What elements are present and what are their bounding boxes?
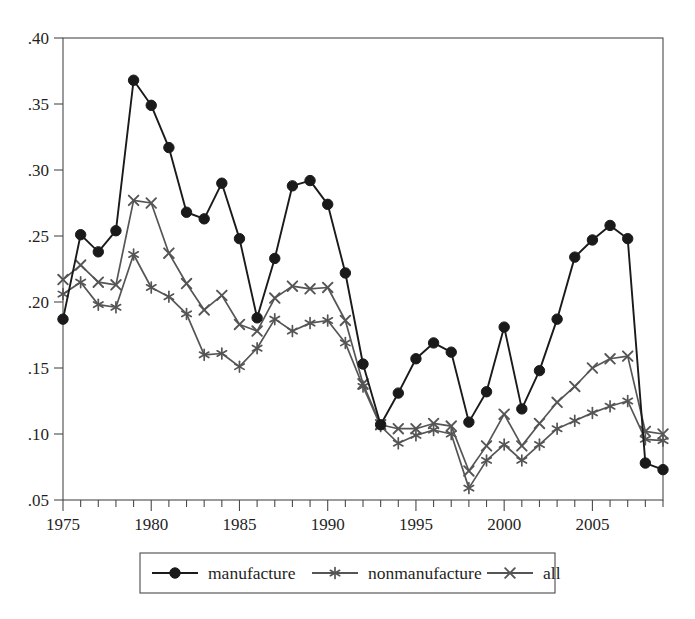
marker-circle bbox=[128, 75, 138, 85]
marker-circle bbox=[375, 420, 385, 430]
series-line bbox=[63, 254, 663, 488]
x-tick-label: 1980 bbox=[134, 515, 168, 534]
marker-circle bbox=[393, 388, 403, 398]
y-tick-label: .40 bbox=[28, 29, 49, 48]
marker-circle bbox=[93, 247, 103, 257]
x-tick-label: 2000 bbox=[487, 515, 521, 534]
marker-circle bbox=[517, 404, 527, 414]
marker-circle bbox=[464, 417, 474, 427]
series-nonmanufacture bbox=[58, 249, 667, 493]
marker-circle bbox=[587, 235, 597, 245]
marker-circle bbox=[58, 314, 68, 324]
marker-circle bbox=[481, 387, 491, 397]
marker-circle bbox=[217, 178, 227, 188]
y-tick-label: .20 bbox=[28, 293, 49, 312]
y-tick-label: .15 bbox=[28, 359, 49, 378]
marker-circle bbox=[305, 175, 315, 185]
marker-circle bbox=[658, 464, 668, 474]
marker-circle bbox=[270, 253, 280, 263]
y-axis: .05.10.15.20.25.30.35.40 bbox=[28, 29, 63, 510]
marker-circle bbox=[323, 199, 333, 209]
legend-label: all bbox=[543, 563, 561, 583]
marker-circle bbox=[552, 314, 562, 324]
y-tick-label: .30 bbox=[28, 161, 49, 180]
marker-circle bbox=[181, 207, 191, 217]
series-manufacture bbox=[58, 75, 668, 475]
marker-circle bbox=[164, 142, 174, 152]
x-tick-label: 1990 bbox=[311, 515, 345, 534]
x-tick-label: 1975 bbox=[46, 515, 80, 534]
series-line bbox=[63, 200, 663, 471]
chart-legend: manufacturenonmanufactureall bbox=[140, 553, 561, 593]
y-tick-label: .10 bbox=[28, 425, 49, 444]
chart-container: .05.10.15.20.25.30.35.40 197519801985199… bbox=[0, 0, 695, 619]
marker-circle bbox=[605, 220, 615, 230]
marker-circle bbox=[234, 233, 244, 243]
marker-circle bbox=[446, 347, 456, 357]
marker-circle bbox=[252, 313, 262, 323]
x-tick-label: 1985 bbox=[222, 515, 256, 534]
marker-circle bbox=[411, 354, 421, 364]
marker-circle bbox=[640, 458, 650, 468]
marker-circle bbox=[170, 568, 180, 578]
x-tick-label: 1995 bbox=[399, 515, 433, 534]
x-tick-label: 2005 bbox=[575, 515, 609, 534]
legend-label: manufacture bbox=[208, 563, 296, 583]
legend-label: nonmanufacture bbox=[368, 563, 482, 583]
marker-circle bbox=[75, 229, 85, 239]
marker-circle bbox=[358, 359, 368, 369]
marker-circle bbox=[340, 268, 350, 278]
y-tick-label: .35 bbox=[28, 95, 49, 114]
series-line bbox=[63, 80, 663, 469]
y-tick-label: .05 bbox=[28, 491, 49, 510]
marker-circle bbox=[428, 338, 438, 348]
marker-circle bbox=[287, 181, 297, 191]
marker-circle bbox=[534, 365, 544, 375]
x-axis: 1975198019851990199520002005 bbox=[46, 500, 663, 534]
series-all bbox=[58, 196, 668, 476]
marker-circle bbox=[146, 100, 156, 110]
marker-circle bbox=[570, 252, 580, 262]
marker-circle bbox=[111, 226, 121, 236]
line-chart: .05.10.15.20.25.30.35.40 197519801985199… bbox=[0, 0, 695, 619]
y-tick-label: .25 bbox=[28, 227, 49, 246]
marker-circle bbox=[623, 233, 633, 243]
marker-circle bbox=[499, 322, 509, 332]
marker-circle bbox=[199, 214, 209, 224]
data-series-group bbox=[58, 75, 668, 493]
